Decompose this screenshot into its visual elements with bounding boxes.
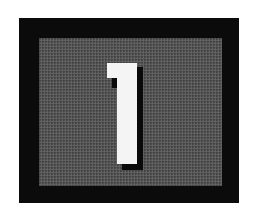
- gray-halftone-panel: 1: [39, 38, 222, 186]
- numeral-one-glyph: 1: [39, 38, 222, 186]
- numeral-stem: [117, 63, 137, 164]
- numeral-shadow-base: [122, 164, 143, 170]
- numeral-text: 1: [39, 38, 40, 39]
- numeral-shadow-stem: [137, 67, 143, 170]
- black-frame: 1: [19, 18, 239, 203]
